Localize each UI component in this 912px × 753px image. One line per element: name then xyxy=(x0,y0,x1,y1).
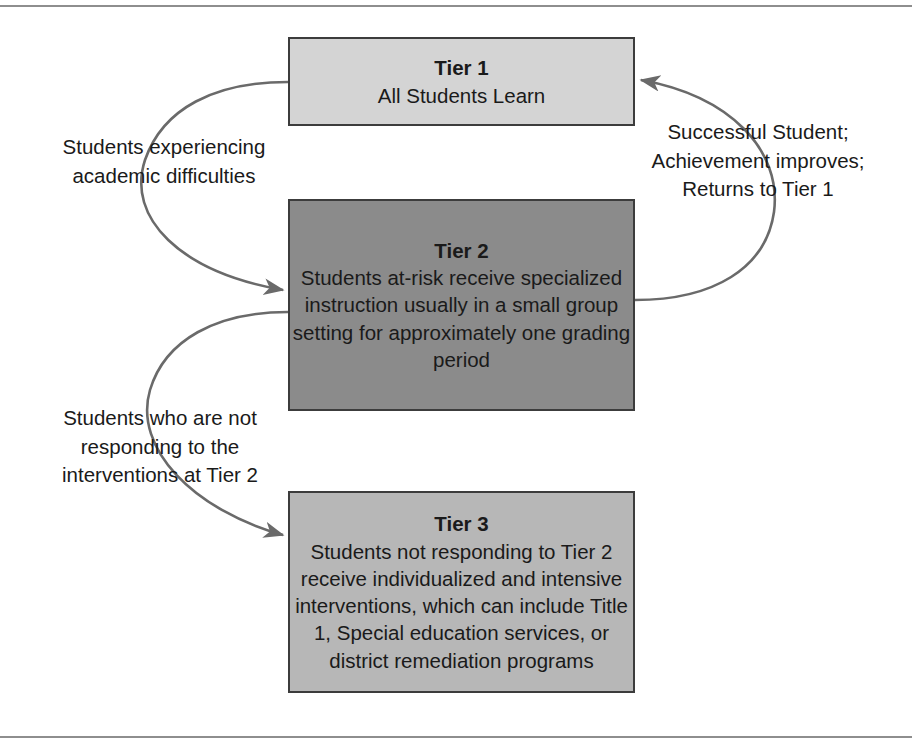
caption-tier2-to-tier1: Successful Student; Achievement improves… xyxy=(618,118,898,204)
tier-1-body: All Students Learn xyxy=(378,82,546,109)
tier-3-body: Students not responding to Tier 2 receiv… xyxy=(290,538,633,674)
tier-1-box[interactable]: Tier 1 All Students Learn xyxy=(288,37,635,126)
diagram-page: Tier 1 All Students Learn Tier 2 Student… xyxy=(0,0,912,753)
tier-3-box[interactable]: Tier 3 Students not responding to Tier 2… xyxy=(288,491,635,693)
tier-1-title: Tier 1 xyxy=(434,54,488,81)
tier-2-body: Students at-risk receive specialized ins… xyxy=(290,264,633,373)
caption-tier2-to-tier3: Students who are not responding to the i… xyxy=(14,404,306,490)
tier-2-box[interactable]: Tier 2 Students at-risk receive speciali… xyxy=(288,199,635,411)
caption-tier1-to-tier2: Students experiencing academic difficult… xyxy=(18,133,310,190)
tier-3-title: Tier 3 xyxy=(434,510,488,537)
tier-2-title: Tier 2 xyxy=(434,237,488,264)
